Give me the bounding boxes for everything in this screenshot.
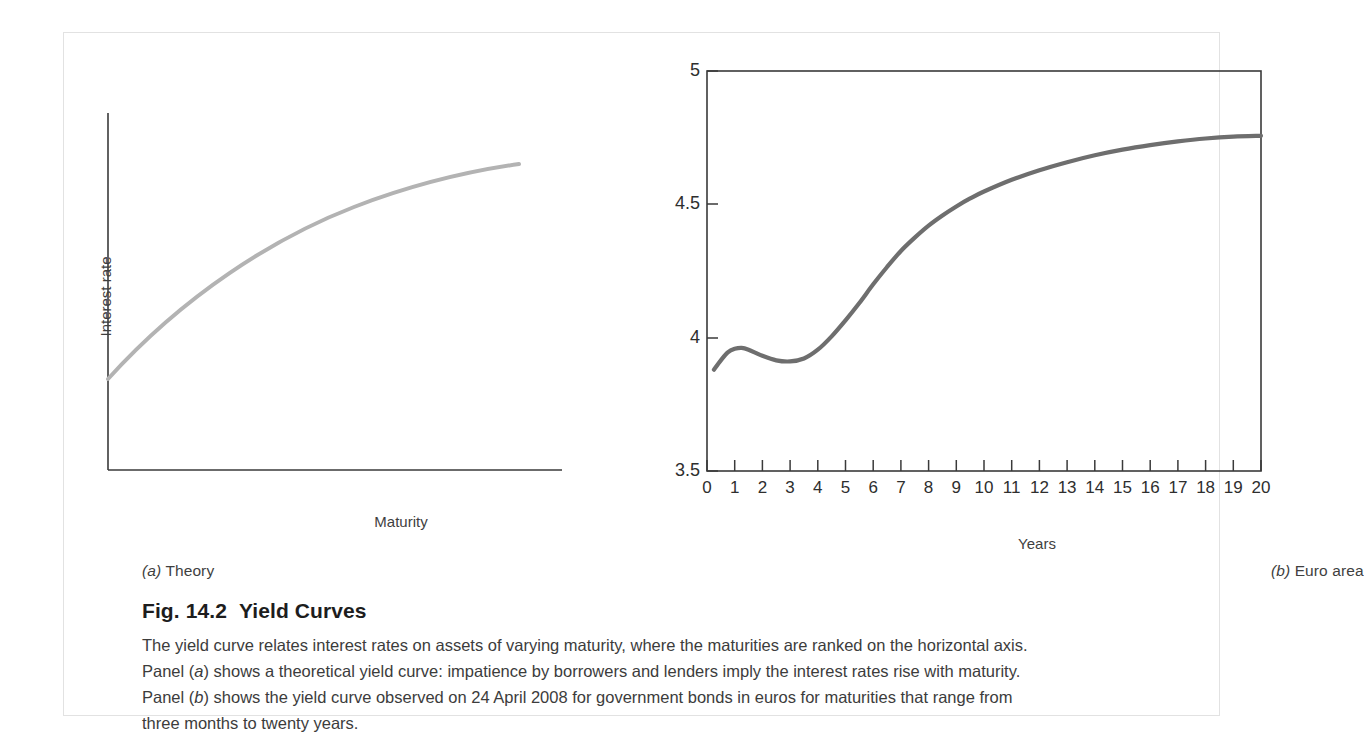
panel-b-caption: (b) Euro area [1271, 562, 1364, 580]
euro-y-ticks [707, 71, 718, 471]
euro-chart-svg [660, 33, 1300, 598]
figure-frame: Interest rate Maturity (a) Theory [63, 32, 1220, 716]
figure-number: Fig. 14.2 [142, 599, 227, 622]
euro-plot-box [707, 71, 1261, 471]
euro-xtick-label-20: 20 [1241, 478, 1281, 498]
panel-a-caption-text: Theory [165, 562, 214, 579]
panel-b-caption-prefix: (b) [1271, 562, 1290, 579]
theory-x-axis-label: Maturity [296, 513, 506, 530]
figure-caption-text: The yield curve relates interest rates o… [142, 632, 1272, 736]
euro-ytick-label-5: 5 [658, 60, 700, 81]
caption-line-4: three months to twenty years. [142, 710, 1272, 736]
figure-caption-block: Fig. 14.2Yield Curves The yield curve re… [142, 599, 1272, 736]
figure-title-text: Yield Curves [239, 599, 367, 622]
euro-ytick-label-4-5: 4.5 [648, 193, 700, 214]
panels-container: Interest rate Maturity (a) Theory [64, 33, 1340, 598]
caption-line-2: Panel (a) shows a theoretical yield curv… [142, 658, 1272, 684]
euro-x-ticks [707, 460, 1261, 471]
panel-theory: Interest rate Maturity (a) Theory [64, 33, 664, 598]
theory-y-axis-label: Interest rate [97, 237, 114, 357]
euro-ytick-label-4: 4 [658, 327, 700, 348]
figure-title: Fig. 14.2Yield Curves [142, 599, 1272, 623]
panel-a-caption: (a) Theory [142, 562, 214, 580]
euro-yield-curve [714, 136, 1261, 370]
caption-line-3: Panel (b) shows the yield curve observed… [142, 684, 1272, 710]
caption-line-1: The yield curve relates interest rates o… [142, 632, 1272, 658]
panel-euro-area: 5 4.5 4 3.5 0123456789101112131415161718… [660, 33, 1300, 598]
theory-yield-curve [108, 164, 519, 379]
panel-b-caption-text: Euro area [1295, 562, 1364, 579]
euro-x-axis-label: Years [932, 535, 1142, 552]
panel-a-caption-prefix: (a) [142, 562, 161, 579]
